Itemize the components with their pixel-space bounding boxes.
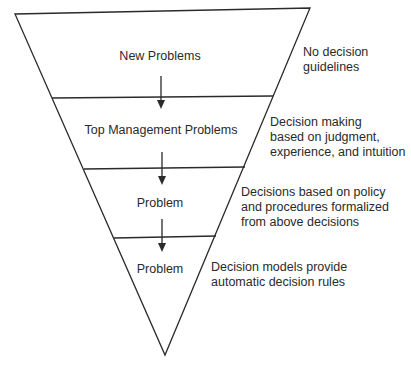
level-2-description: Decision making based on judgment, exper… — [270, 115, 406, 160]
level-3-description: Decisions based on policy and procedures… — [241, 185, 389, 230]
level-4-description: Decision models provide automatic decisi… — [211, 260, 347, 290]
level-3-label: Problem — [137, 196, 184, 211]
arrow-1-head — [157, 100, 165, 109]
arrow-2-head — [158, 176, 166, 185]
level-4-label: Problem — [137, 262, 184, 277]
divider-1 — [52, 96, 273, 98]
level-2-label: Top Management Problems — [85, 123, 238, 138]
divider-3 — [114, 236, 216, 238]
level-1-description: No decision guidelines — [303, 45, 368, 75]
divider-2 — [84, 167, 245, 169]
level-1-label: New Problems — [119, 49, 200, 64]
arrow-3-head — [158, 243, 166, 252]
